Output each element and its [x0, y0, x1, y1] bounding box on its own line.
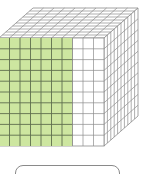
grid-cube-diagram	[0, 0, 143, 174]
answer-input-box[interactable]	[15, 165, 120, 174]
cube-front-face	[0, 38, 104, 146]
